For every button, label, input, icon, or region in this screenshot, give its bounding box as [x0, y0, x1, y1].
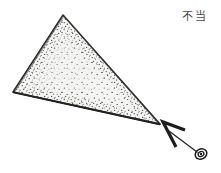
spiral-core-dot: [200, 153, 202, 155]
illustration-canvas: 不当: [0, 0, 221, 173]
stippled-triangle: [0, 0, 221, 173]
annotation-label: 不当: [182, 10, 208, 23]
figure-svg: [0, 0, 221, 173]
spiral-marker-icon: [193, 147, 208, 161]
